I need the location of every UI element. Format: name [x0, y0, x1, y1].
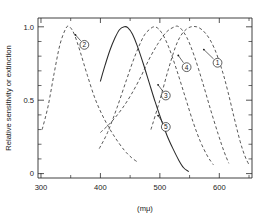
- tick-marks-group: [38, 18, 252, 178]
- callout-badge-label-5: 5: [164, 123, 168, 130]
- spectral-sensitivity-figure: 30040050060000.51.0 12345 (mμ) Relative …: [0, 0, 266, 218]
- curves-group: [42, 26, 249, 171]
- callout-badge-label-4: 4: [185, 64, 189, 71]
- y-axis-title: Relative sensitivity or extinction: [4, 45, 13, 151]
- x-axis-title: (mμ): [137, 204, 153, 213]
- chart-canvas: 30040050060000.51.0 12345 (mμ) Relative …: [0, 0, 266, 218]
- y-tick-label: 0.5: [23, 96, 34, 105]
- x-tick-label: 400: [94, 183, 107, 192]
- tick-labels-group: 30040050060000.51.0: [23, 23, 225, 192]
- callout-leader-3: [158, 85, 163, 91]
- y-tick-label: 0: [30, 169, 34, 178]
- callout-badge-label-3: 3: [164, 92, 168, 99]
- axes-group: [38, 18, 252, 178]
- callout-anchor-dot-5: [157, 115, 159, 117]
- curve-3: [99, 27, 213, 165]
- x-tick-label: 300: [35, 183, 48, 192]
- x-tick-label: 600: [213, 183, 226, 192]
- callout-anchor-dot-3: [157, 84, 159, 86]
- x-tick-label: 500: [154, 183, 167, 192]
- curve-callouts-group: 12345: [75, 34, 222, 131]
- callout-anchor-dot-4: [177, 55, 179, 57]
- callout-anchor-dot-1: [203, 49, 205, 51]
- callout-anchor-dot-2: [75, 34, 77, 36]
- callout-badge-label-1: 1: [216, 59, 220, 66]
- callout-leader-4: [178, 55, 183, 62]
- callout-leader-1: [204, 50, 214, 59]
- callout-badge-label-2: 2: [83, 41, 87, 48]
- curve-2: [42, 26, 137, 162]
- y-tick-label: 1.0: [23, 23, 34, 32]
